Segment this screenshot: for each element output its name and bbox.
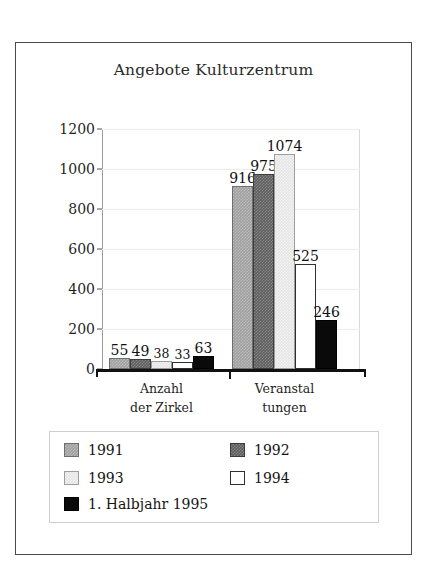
figure-frame: Angebote Kulturzentrum 02004006008001000… (15, 42, 412, 555)
y-axis-tick-mark (97, 209, 102, 210)
x-axis-tick-right (364, 369, 366, 377)
x-axis-category-label: Veranstaltungen (255, 379, 315, 418)
bar (151, 361, 172, 369)
y-axis-tick-mark (97, 249, 102, 250)
gridline (102, 209, 360, 210)
legend-item[interactable]: 1992 (230, 442, 290, 458)
y-axis-tick-label: 200 (68, 321, 95, 337)
swatch-1994-icon (230, 471, 245, 485)
swatch-1993-icon (64, 471, 79, 485)
x-axis-tick-left (96, 369, 98, 377)
x-axis-line (96, 369, 366, 372)
category-label-line: tungen (255, 398, 315, 417)
x-axis-tick-mid (229, 372, 231, 379)
category-label-line: Anzahl (130, 379, 193, 398)
category-label-line: Veranstal (255, 379, 315, 398)
bar (232, 186, 253, 369)
y-axis-tick-mark (97, 169, 102, 170)
bar (253, 174, 274, 369)
category-label-line: der Zirkel (130, 398, 193, 417)
bar-value-label: 33 (175, 349, 191, 362)
legend-item[interactable]: 1991 (64, 442, 124, 458)
bar-value-label: 55 (111, 343, 129, 357)
legend-item-label: 1. Halbjahr 1995 (88, 496, 208, 512)
legend-item-label: 1991 (88, 442, 124, 458)
swatch-1995-icon (64, 497, 79, 511)
y-axis-tick-mark (97, 329, 102, 330)
bar-value-label: 246 (313, 305, 340, 319)
swatch-1991-icon (64, 443, 79, 457)
bar (109, 358, 130, 369)
legend-item[interactable]: 1993 (64, 470, 124, 486)
y-axis-tick-mark (97, 129, 102, 130)
chart-title: Angebote Kulturzentrum (16, 61, 411, 79)
bar-value-label: 49 (132, 344, 150, 358)
bar-value-label: 63 (195, 341, 213, 355)
legend-item-label: 1992 (254, 442, 290, 458)
y-axis-tick-label: 400 (68, 281, 95, 297)
chart-legend: 19911992199319941. Halbjahr 1995 (49, 431, 379, 523)
legend-item-label: 1993 (88, 470, 124, 486)
y-axis-tick-label: 600 (68, 241, 95, 257)
bar (193, 356, 214, 369)
y-axis-tick-label: 1000 (59, 161, 95, 177)
bar-value-label: 1074 (267, 139, 303, 153)
y-axis-tick-label: 1200 (59, 121, 95, 137)
gridline (102, 289, 360, 290)
bar-value-label: 525 (292, 249, 319, 263)
y-axis-tick-label: 800 (68, 201, 95, 217)
bar-value-label: 38 (154, 348, 170, 361)
bar (172, 362, 193, 369)
plot-area-wrapper: 020040060080010001200 554938336391697510… (102, 129, 360, 369)
y-axis-tick-mark (97, 289, 102, 290)
swatch-1992-icon (230, 443, 245, 457)
legend-item-label: 1994 (254, 470, 290, 486)
gridline (102, 129, 360, 130)
legend-item[interactable]: 1. Halbjahr 1995 (64, 496, 208, 512)
bar (130, 359, 151, 369)
bar (316, 320, 337, 369)
gridline (102, 249, 360, 250)
y-axis-tick-label: 0 (86, 361, 95, 377)
bar-value-label: 975 (250, 159, 277, 173)
legend-item[interactable]: 1994 (230, 470, 290, 486)
x-axis-category-label: Anzahlder Zirkel (130, 379, 193, 418)
